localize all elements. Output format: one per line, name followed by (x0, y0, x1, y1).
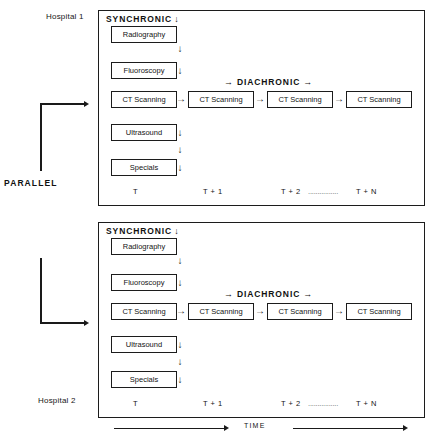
synchronic-flow-arrow-down-icon-1d: ↓ (175, 145, 185, 155)
time-axis-arrowhead-left-icon (224, 425, 229, 431)
synchronic-flow-arrow-down-icon-1a: ↓ (175, 44, 185, 54)
time-axis: TIME (98, 418, 425, 440)
time-tick-2-t2: T + 2 (281, 399, 301, 408)
synchronic-flow-arrow-down-icon-1e: ↓ (175, 163, 185, 173)
parallel-bracket-bottom-arm (40, 322, 86, 324)
diachronic-flow-arrow-right-icon-1a: → (175, 93, 187, 105)
parallel-bracket-top-stem (40, 103, 42, 171)
diachronic-flow-arrow-right-icon-2a: → (175, 305, 187, 317)
diachronic-ct-box-1-t1: CT Scanning (188, 91, 254, 108)
synchronic-flow-arrow-down-icon-2c: ↓ (175, 340, 185, 350)
time-tick-1-t2: T + 2 (281, 187, 301, 196)
time-axis-label: TIME (244, 422, 266, 429)
time-tick-1-t: T (133, 187, 138, 196)
synchronic-flow-arrow-down-icon-1c: ↓ (175, 128, 185, 138)
parallel-label: PARALLEL (4, 178, 58, 188)
synchronic-heading-2: SYNCHRONIC↓ (106, 226, 180, 236)
panel-hospital-2: SYNCHRONIC↓ →DIACHRONIC→ Radiography Flu… (98, 222, 425, 418)
diachronic-label-2: DIACHRONIC (237, 289, 300, 299)
diachronic-ct-box-2-t1: CT Scanning (188, 303, 254, 320)
modality-box-radiography-1: Radiography (111, 26, 177, 43)
diachronic-arrow-right-icon-2: → (300, 289, 316, 299)
time-tick-1-tn: T + N (356, 187, 377, 196)
modality-box-ultrasound-2: Ultrasound (111, 336, 177, 353)
synchronic-arrow-down-icon-1: ↓ (172, 14, 179, 24)
parallel-bracket-top-arm (40, 103, 86, 105)
time-axis-line-right (293, 428, 405, 429)
synchronic-flow-arrow-down-icon-2d: ↓ (175, 357, 185, 367)
synchronic-label-1: SYNCHRONIC (106, 14, 172, 24)
time-tick-1-t1: T + 1 (203, 187, 223, 196)
panel-hospital-1: SYNCHRONIC↓ →DIACHRONIC→ Radiography Flu… (98, 10, 425, 206)
modality-box-specials-2: Specials (111, 371, 177, 388)
modality-box-ultrasound-1: Ultrasound (111, 124, 177, 141)
modality-box-fluoroscopy-2: Fluoroscopy (111, 274, 177, 291)
modality-box-radiography-2: Radiography (111, 238, 177, 255)
diachronic-flow-arrow-right-icon-1c: → (333, 93, 345, 105)
synchronic-heading-1: SYNCHRONIC↓ (106, 14, 180, 24)
diachronic-arrow-left-icon-1: → (221, 77, 237, 87)
diachronic-arrow-left-icon-2: → (221, 289, 237, 299)
modality-box-fluoroscopy-1: Fluoroscopy (111, 62, 177, 79)
diachronic-label-1: DIACHRONIC (237, 77, 300, 87)
diachronic-ct-box-1-tn: CT Scanning (346, 91, 412, 108)
diachronic-flow-arrow-right-icon-2b: → (254, 305, 266, 317)
time-tick-2-t1: T + 1 (203, 399, 223, 408)
synchronic-flow-arrow-down-icon-1b: ↓ (175, 66, 185, 76)
time-axis-line-left (114, 428, 226, 429)
synchronic-label-2: SYNCHRONIC (106, 226, 172, 236)
parallel-bracket-top-arrowhead-icon (84, 101, 89, 107)
diachronic-heading-2: →DIACHRONIC→ (221, 289, 316, 299)
parallel-bracket-bottom-stem (40, 258, 42, 324)
hospital-2-label: Hospital 2 (38, 396, 76, 405)
figure-canvas: Hospital 1 Hospital 2 PARALLEL SYNCHRONI… (0, 0, 435, 443)
synchronic-flow-arrow-down-icon-2a: ↓ (175, 256, 185, 266)
time-tick-2-t: T (133, 399, 138, 408)
hospital-1-label: Hospital 1 (46, 12, 84, 21)
time-tick-2-dots: ................ (308, 399, 338, 408)
synchronic-flow-arrow-down-icon-2e: ↓ (175, 375, 185, 385)
diachronic-heading-1: →DIACHRONIC→ (221, 77, 316, 87)
modality-box-ct-scanning-2: CT Scanning (111, 303, 177, 320)
diachronic-ct-box-1-t2: CT Scanning (267, 91, 333, 108)
diachronic-ct-box-2-tn: CT Scanning (346, 303, 412, 320)
time-axis-arrowhead-right-icon (403, 425, 408, 431)
modality-box-ct-scanning-1: CT Scanning (111, 91, 177, 108)
diachronic-ct-box-2-t2: CT Scanning (267, 303, 333, 320)
synchronic-flow-arrow-down-icon-2b: ↓ (175, 278, 185, 288)
diachronic-flow-arrow-right-icon-1b: → (254, 93, 266, 105)
time-tick-1-dots: ................ (308, 187, 338, 196)
synchronic-arrow-down-icon-2: ↓ (172, 226, 179, 236)
time-tick-2-tn: T + N (356, 399, 377, 408)
diachronic-flow-arrow-right-icon-2c: → (333, 305, 345, 317)
modality-box-specials-1: Specials (111, 159, 177, 176)
diachronic-arrow-right-icon-1: → (300, 77, 316, 87)
parallel-bracket-bottom-arrowhead-icon (84, 320, 89, 326)
